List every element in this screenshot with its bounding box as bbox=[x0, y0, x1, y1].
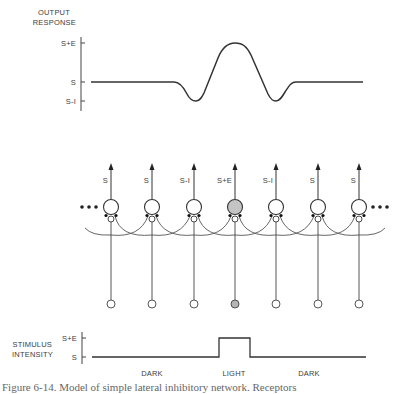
region-label-dark-right: DARK bbox=[298, 369, 320, 378]
stimulus-intensity-panel: STIMULUS INTENSITY S+E S DARK LIGHT DARK bbox=[12, 332, 366, 378]
receptor bbox=[107, 300, 115, 308]
receptor bbox=[190, 300, 198, 308]
output-tick-label-se: S+E bbox=[61, 39, 76, 48]
receptor-stimulated bbox=[231, 300, 239, 308]
output-response-panel: OUTPUT RESPONSE S+E S S-I bbox=[33, 8, 363, 111]
neuron-label: S bbox=[103, 176, 108, 185]
stimulus-step-line bbox=[92, 338, 366, 357]
neuron-label: S-I bbox=[180, 176, 190, 185]
output-title-line2: RESPONSE bbox=[33, 18, 76, 27]
figure-caption: Figure 6-14. Model of simple lateral inh… bbox=[2, 380, 398, 394]
stimulus-tick-label-s: S bbox=[72, 353, 77, 362]
neuron-label: S-I bbox=[263, 176, 273, 185]
region-label-dark-left: DARK bbox=[141, 369, 163, 378]
ellipsis-right-icon bbox=[371, 205, 389, 209]
receptor bbox=[148, 300, 156, 308]
output-tick-label-si: S-I bbox=[66, 97, 76, 106]
ellipsis-left-icon bbox=[80, 205, 98, 209]
neural-network: S S S-I bbox=[80, 163, 389, 308]
receptor bbox=[355, 300, 363, 308]
stimulus-tick-label-se: S+E bbox=[62, 334, 77, 343]
region-label-light: LIGHT bbox=[222, 369, 245, 378]
output-response-curve bbox=[91, 43, 363, 101]
stimulus-title-line1: STIMULUS bbox=[12, 340, 52, 349]
neuron-label: S bbox=[310, 176, 315, 185]
neuron-label: S bbox=[351, 176, 356, 185]
stimulus-title-line2: INTENSITY bbox=[12, 350, 53, 359]
neuron-label: S bbox=[144, 176, 149, 185]
receptor bbox=[272, 300, 280, 308]
output-tick-label-s: S bbox=[71, 78, 76, 87]
neuron-label: S+E bbox=[217, 176, 232, 185]
output-title-line1: OUTPUT bbox=[38, 8, 70, 17]
receptor bbox=[314, 300, 322, 308]
